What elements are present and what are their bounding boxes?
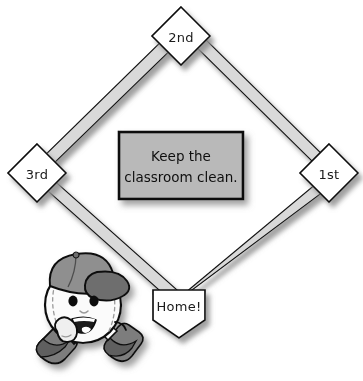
first-base-label: 1st	[318, 167, 339, 182]
mascot-right-eye	[89, 296, 98, 307]
sign-line-1: Keep the	[151, 148, 211, 164]
home-plate-label: Home!	[156, 299, 201, 314]
baseball-mascot	[36, 252, 143, 364]
baseball-diamond-illustration: Keep the classroom clean. 2nd 3rd 1st Ho…	[0, 0, 363, 381]
home-plate[interactable]: Home!	[153, 290, 205, 338]
sign-panel	[119, 132, 243, 199]
poster-canvas: Keep the classroom clean. 2nd 3rd 1st Ho…	[0, 0, 363, 381]
home-plate-pentagon	[153, 290, 205, 338]
second-base-label: 2nd	[168, 30, 194, 45]
classroom-sign: Keep the classroom clean.	[119, 132, 243, 199]
mascot-cap-brim	[85, 271, 129, 300]
third-base-label: 3rd	[26, 167, 49, 182]
sign-line-2: classroom clean.	[124, 169, 237, 185]
mascot-cap-button	[73, 252, 79, 258]
mascot-left-eye	[68, 296, 77, 307]
